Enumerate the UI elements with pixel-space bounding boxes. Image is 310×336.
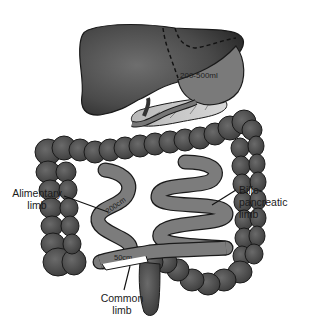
label-line: limb bbox=[6, 199, 68, 211]
biliopancreatic-limb-label: Bilio- pancreatic limb bbox=[239, 184, 299, 220]
alimentary-limb-label: Alimentary limb bbox=[6, 187, 68, 211]
common-limb-label: Common limb bbox=[92, 292, 152, 316]
surgical-diagram: 200-500ml bbox=[0, 0, 310, 336]
label-line: Alimentary bbox=[6, 187, 68, 199]
label-line: pancreatic bbox=[239, 196, 299, 208]
label-line: limb bbox=[92, 304, 152, 316]
biliopancreatic-limb bbox=[158, 162, 226, 248]
stomach-volume-label: 200-500ml bbox=[180, 71, 218, 80]
label-line: limb bbox=[239, 208, 299, 220]
label-line: Common bbox=[92, 292, 152, 304]
label-line: Bilio- bbox=[239, 184, 299, 196]
alimentary-limb: 200cm bbox=[98, 170, 131, 262]
